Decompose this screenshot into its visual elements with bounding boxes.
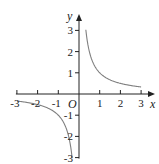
y-axis-arrow-icon bbox=[76, 14, 82, 21]
x-tick-label: 1 bbox=[97, 97, 103, 109]
y-tick-label: 1 bbox=[68, 67, 74, 79]
x-tick-label: -3 bbox=[10, 97, 20, 109]
x-tick-label: 3 bbox=[138, 97, 144, 109]
y-tick-label: 2 bbox=[68, 46, 74, 58]
x-axis-label: x bbox=[149, 97, 156, 111]
x-tick-label: -1 bbox=[52, 97, 61, 109]
curve-positive-branch bbox=[86, 30, 141, 87]
y-tick-label: -1 bbox=[64, 109, 73, 121]
y-tick-label: 3 bbox=[68, 24, 74, 36]
x-tick-label: -2 bbox=[31, 97, 40, 109]
y-tick-label: -3 bbox=[64, 152, 74, 164]
function-graph: -3-2-1123-3-2-1123xyO bbox=[0, 0, 159, 164]
y-tick-label: -2 bbox=[64, 130, 73, 142]
origin-label: O bbox=[68, 97, 77, 111]
x-tick-label: 2 bbox=[118, 97, 124, 109]
y-axis-label: y bbox=[66, 9, 73, 23]
